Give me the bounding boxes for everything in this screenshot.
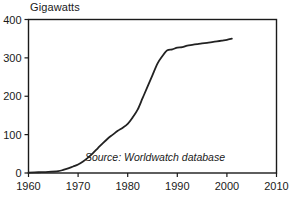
chart-container: Gigawatts 0100200300400 1960197019801990… <box>0 0 293 199</box>
y-axis-tick-label: 100 <box>3 129 21 141</box>
y-axis-tick-labels: 0100200300400 <box>3 14 21 180</box>
source-annotation: Source: Worldwatch database <box>85 151 225 163</box>
x-axis-tick-label: 2010 <box>264 180 288 192</box>
y-axis-tick-label: 0 <box>15 167 21 179</box>
y-axis-tick-label: 400 <box>3 14 21 26</box>
x-axis-tick-label: 1990 <box>165 180 189 192</box>
y-axis-tick-label: 300 <box>3 52 21 64</box>
x-axis-tick-labels: 196019701980199020002010 <box>16 180 288 192</box>
x-axis-tick-label: 1970 <box>66 180 90 192</box>
x-axis-tick-label: 1960 <box>16 180 40 192</box>
x-axis-tick-label: 1980 <box>115 180 139 192</box>
y-axis-tick-label: 200 <box>3 90 21 102</box>
x-axis-tick-label: 2000 <box>215 180 239 192</box>
line-chart-plot: 0100200300400 196019701980199020002010 S… <box>0 0 293 199</box>
